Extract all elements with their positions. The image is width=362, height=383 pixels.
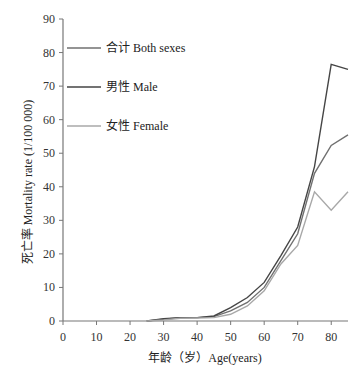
y-axis: 0102030405060708090 — [43, 12, 63, 328]
x-tick-label: 30 — [158, 330, 170, 344]
y-axis-title: 死亡率 Mortality rate (1/100 000) — [20, 100, 35, 265]
x-tick-label: 80 — [325, 330, 337, 344]
y-tick-label: 60 — [43, 113, 55, 127]
y-tick-label: 50 — [43, 146, 55, 160]
x-tick-label: 20 — [124, 330, 136, 344]
x-tick-label: 60 — [258, 330, 270, 344]
legend-label: 男性 Male — [106, 80, 158, 94]
x-tick-label: 40 — [191, 330, 203, 344]
y-tick-label: 10 — [43, 280, 55, 294]
series-line — [147, 135, 348, 321]
y-tick-label: 70 — [43, 79, 55, 93]
series-lines — [147, 64, 348, 321]
x-axis: 01020304050607080 — [60, 321, 348, 344]
legend-label: 女性 Female — [106, 118, 168, 133]
x-tick-label: 0 — [60, 330, 66, 344]
y-tick-label: 30 — [43, 213, 55, 227]
mortality-line-chart: 0102030405060708090 01020304050607080 合计… — [0, 0, 362, 383]
legend: 合计 Both sexes男性 Male女性 Female — [67, 40, 186, 133]
x-tick-label: 50 — [225, 330, 237, 344]
y-tick-label: 80 — [43, 46, 55, 60]
y-tick-label: 20 — [43, 247, 55, 261]
y-tick-label: 40 — [43, 180, 55, 194]
y-tick-label: 90 — [43, 12, 55, 26]
y-tick-label: 0 — [49, 314, 55, 328]
series-line — [147, 64, 348, 321]
x-tick-label: 10 — [91, 330, 103, 344]
legend-label: 合计 Both sexes — [106, 40, 186, 55]
x-tick-label: 70 — [292, 330, 304, 344]
x-axis-title: 年龄（岁）Age(years) — [148, 350, 261, 365]
